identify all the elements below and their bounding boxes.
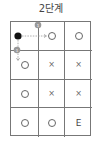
puzzle-grid: × × × × E [10,21,91,136]
cross-icon: × [75,90,82,98]
step-title: 2단계 [0,2,102,15]
open-circle-icon [21,90,29,98]
cell-r4-c2 [39,108,65,137]
cell-r1-c2 [39,22,65,51]
cell-r4-c3: E [65,108,92,137]
cell-r3-c1 [11,80,39,108]
cell-r1-c3 [65,22,92,51]
open-circle-icon [21,61,29,69]
cell-r2-c1 [11,51,39,80]
cell-r1-c1 [11,22,39,51]
open-circle-icon [48,32,56,40]
cell-r2-c2: × [39,51,65,80]
cross-icon: × [48,90,55,98]
open-circle-icon [21,119,29,127]
cell-r4-c1 [11,108,39,137]
end-label: E [76,118,82,128]
cell-r2-c3: × [65,51,92,80]
open-circle-icon [48,119,56,127]
open-circle-icon [75,32,83,40]
cell-r3-c2: × [39,80,65,108]
cross-icon: × [48,61,55,69]
cell-r3-c3: × [65,80,92,108]
cross-icon: × [75,61,82,69]
